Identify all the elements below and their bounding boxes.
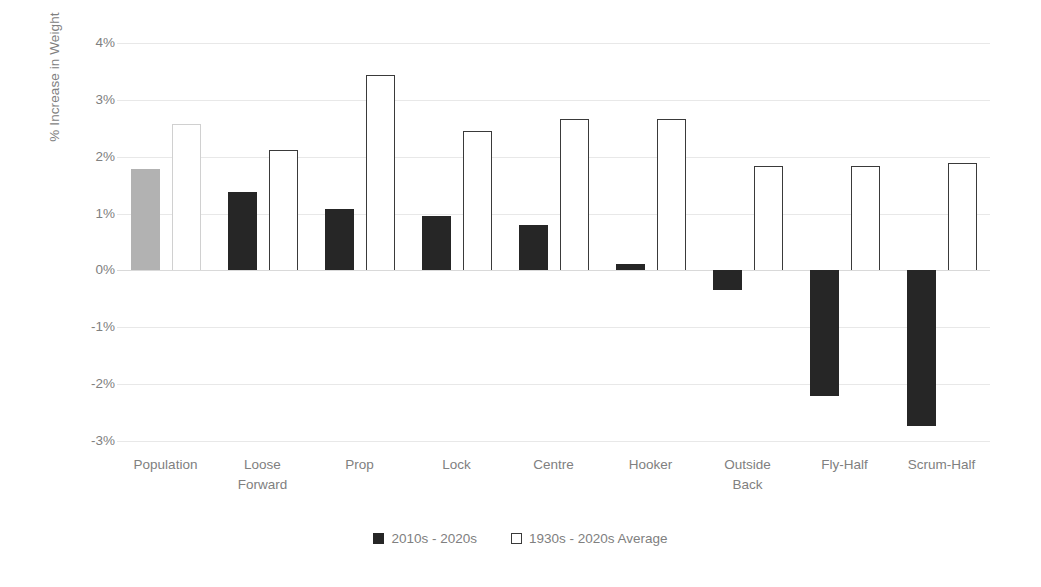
legend-item: 1930s - 2020s Average <box>511 531 668 546</box>
chart-legend: 2010s - 2020s1930s - 2020s Average <box>0 524 1041 552</box>
x-axis-category-label: Population <box>117 455 214 475</box>
y-axis-tick-labels: 4%3%2%1%0%-1%-2%-3% <box>63 0 115 587</box>
bar <box>810 270 839 396</box>
x-axis-category-label: Lock <box>408 455 505 475</box>
x-axis-category-label: Outside Back <box>699 455 796 495</box>
x-axis-category-label: Loose Forward <box>214 455 311 495</box>
bar <box>851 166 880 270</box>
legend-swatch-icon <box>373 533 384 544</box>
bar <box>269 150 298 270</box>
bar <box>657 119 686 270</box>
y-axis-tick-label: -3% <box>63 434 115 448</box>
bar <box>754 166 783 270</box>
bar <box>948 163 977 270</box>
legend-label: 2010s - 2020s <box>391 531 477 546</box>
x-axis-category-label: Prop <box>311 455 408 475</box>
bar <box>325 209 354 270</box>
gridline <box>117 441 990 442</box>
x-axis-category-label: Hooker <box>602 455 699 475</box>
x-axis-category-label: Centre <box>505 455 602 475</box>
bar <box>907 270 936 426</box>
bar <box>366 75 395 270</box>
bar <box>422 216 451 271</box>
y-axis-tick-label: 0% <box>63 263 115 277</box>
x-axis-category-labels: PopulationLoose ForwardPropLockCentreHoo… <box>117 455 990 505</box>
bar <box>463 131 492 270</box>
bar <box>172 124 201 271</box>
bar <box>519 225 548 270</box>
x-axis-category-label: Scrum-Half <box>893 455 990 475</box>
bar <box>616 264 645 271</box>
bar <box>713 270 742 289</box>
bar <box>131 169 160 270</box>
bar-chart: % Increase in Weight 4%3%2%1%0%-1%-2%-3%… <box>0 0 1041 587</box>
bar <box>228 192 257 270</box>
x-axis-category-label: Fly-Half <box>796 455 893 475</box>
y-axis-tick-label: 1% <box>63 207 115 221</box>
legend-label: 1930s - 2020s Average <box>529 531 668 546</box>
y-axis-tick-label: 4% <box>63 36 115 50</box>
bar-series-layer <box>117 43 990 441</box>
y-axis-tick-label: -1% <box>63 320 115 334</box>
y-axis-tick-label: 3% <box>63 93 115 107</box>
legend-swatch-icon <box>511 533 522 544</box>
y-axis-tick-label: 2% <box>63 150 115 164</box>
bar <box>560 119 589 270</box>
legend-item: 2010s - 2020s <box>373 531 477 546</box>
y-axis-tick-label: -2% <box>63 377 115 391</box>
